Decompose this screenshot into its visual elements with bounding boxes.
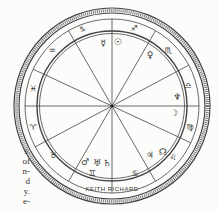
leo-icon: ♌ xyxy=(169,153,176,162)
chart-title: KEITH RICHARD xyxy=(85,186,138,192)
jupiter-icon: ♃ xyxy=(146,150,154,160)
neptune-icon: ♆ xyxy=(173,92,181,102)
aries-icon: ♈ xyxy=(29,123,36,132)
venus-icon: ♀ xyxy=(147,50,154,60)
sagittarius-icon: ♐ xyxy=(130,24,137,33)
virgo-icon: ♍ xyxy=(186,123,193,132)
pisces-icon: ♓ xyxy=(29,84,36,93)
node-icon: ☊ xyxy=(159,147,167,157)
mars-icon: ♂ xyxy=(81,157,89,167)
taurus-icon: ♉ xyxy=(49,151,56,160)
scorpio-icon: ♏ xyxy=(164,46,172,55)
natal-chart-wheel: ♑♐♏♎♍♌♋♊♉♈♓♒ ☿☉♀♆☽☊♃♂♅♄ KEITH RICHARD xyxy=(0,0,218,214)
gemini-icon: ♊ xyxy=(88,169,95,178)
mercury-icon: ☿ xyxy=(100,38,106,48)
aquarius-icon: ♒ xyxy=(48,46,55,55)
cancer-icon: ♋ xyxy=(131,169,138,178)
sun-icon: ☉ xyxy=(114,37,122,47)
saturn-icon: ♄ xyxy=(103,158,111,168)
capricorn-icon: ♑ xyxy=(78,25,85,34)
moon-icon: ☽ xyxy=(170,108,178,118)
center-point xyxy=(111,105,114,108)
zodiac-sign-glyphs: ♑♐♏♎♍♌♋♊♉♈♓♒ xyxy=(29,24,193,178)
planet-glyphs: ☿☉♀♆☽☊♃♂♅♄ xyxy=(81,37,181,168)
libra-icon: ♎ xyxy=(184,81,191,90)
uranus-icon: ♅ xyxy=(93,158,101,168)
